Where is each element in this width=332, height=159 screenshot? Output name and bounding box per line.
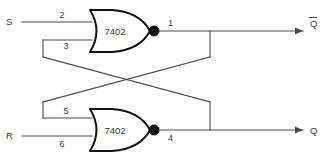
- pin-label-1: 1: [168, 18, 173, 28]
- pin-label-2: 2: [59, 10, 64, 20]
- nor-latch-schematic: S 2 3 7402 1 Q 5 R 6 7402 4 Q: [0, 0, 332, 159]
- invert-bubble-top: [149, 26, 159, 36]
- gate-part-label-bottom: 7402: [104, 125, 125, 136]
- pin-label-6: 6: [59, 139, 64, 149]
- input-label-r: R: [6, 130, 13, 141]
- output-label-q: Q: [310, 125, 317, 136]
- pin-label-5: 5: [63, 106, 68, 116]
- arrowhead-q: [295, 127, 303, 134]
- output-label-qbar: Q: [310, 18, 317, 29]
- pin-label-3: 3: [63, 41, 68, 51]
- invert-bubble-bottom: [149, 125, 159, 135]
- gate-part-label-top: 7402: [104, 26, 125, 37]
- input-label-s: S: [6, 16, 12, 27]
- pin-label-4: 4: [168, 133, 173, 143]
- arrowhead-qbar: [295, 28, 303, 35]
